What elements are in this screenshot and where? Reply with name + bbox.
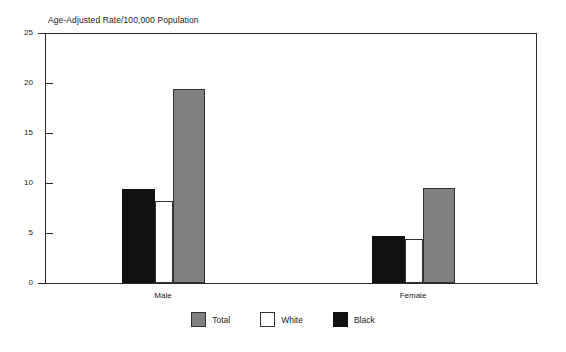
- legend-label-white: White: [281, 315, 303, 325]
- x-tick-label-male: Male: [133, 291, 193, 300]
- legend-item-total: Total: [191, 312, 230, 327]
- chart-legend: Total White Black: [0, 312, 566, 327]
- bar-female-total: [423, 188, 455, 283]
- black-swatch-icon: [333, 312, 348, 327]
- white-swatch-icon: [260, 312, 275, 327]
- gray-swatch-icon: [191, 312, 206, 327]
- legend-label-black: Black: [354, 315, 375, 325]
- x-tick-label-female: Female: [383, 291, 443, 300]
- bar-female-white: [405, 239, 423, 283]
- bar-chart: Age-Adjusted Rate/100,000 Population 25 …: [0, 0, 566, 352]
- bar-male-black: [122, 189, 155, 283]
- bar-male-total: [173, 89, 205, 283]
- legend-label-total: Total: [212, 315, 230, 325]
- legend-item-white: White: [260, 312, 303, 327]
- bar-female-black: [372, 236, 405, 283]
- bar-male-white: [155, 201, 173, 283]
- legend-item-black: Black: [333, 312, 375, 327]
- bars-layer: [0, 0, 566, 352]
